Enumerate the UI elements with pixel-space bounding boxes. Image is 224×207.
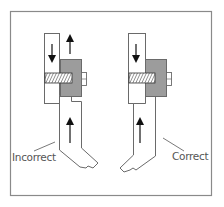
- label-incorrect: Incorrect: [12, 151, 56, 163]
- figure-incorrect: Incorrect: [12, 34, 98, 169]
- leader-line: [34, 142, 55, 151]
- screw: [45, 73, 72, 83]
- diagram-frame: [11, 12, 212, 196]
- arrow-up-icon: [66, 34, 74, 54]
- outer-bar: [129, 34, 146, 104]
- screw: [129, 73, 155, 83]
- label-correct: Correct: [172, 150, 208, 162]
- lower-arm: [60, 96, 99, 169]
- figure-correct: Correct: [120, 34, 208, 173]
- clamp-comparison-diagram: Incorrect Correct: [0, 0, 224, 207]
